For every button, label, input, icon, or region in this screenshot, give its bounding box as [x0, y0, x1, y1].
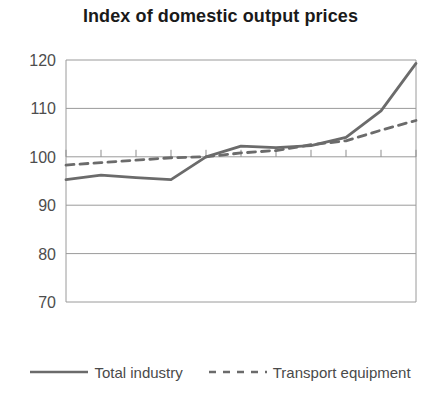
y-axis-tick-label: 90: [38, 197, 56, 214]
x-axis-tick-label: 2006: [399, 314, 432, 318]
plot-area: 708090100110120199619982000200220042006: [0, 48, 441, 318]
x-axis-tick-label: 2004: [329, 314, 362, 318]
y-axis-tick-label: 110: [30, 100, 56, 117]
legend-swatch-solid-line-icon: [30, 365, 90, 379]
x-axis-tick-label: 2002: [259, 314, 292, 318]
series-line-total-industry: [66, 63, 416, 179]
series-line-transport-equipment: [66, 121, 416, 166]
y-axis-tick-label: 100: [29, 149, 56, 166]
legend-label-transport-equipment: Transport equipment: [273, 364, 411, 381]
legend-item-total-industry: Total industry: [30, 364, 182, 381]
y-axis-tick-label: 80: [38, 246, 56, 263]
chart-title: Index of domestic output prices: [0, 6, 441, 27]
chart-container: Index of domestic output prices 70809010…: [0, 0, 441, 407]
y-axis-tick-label: 120: [29, 52, 56, 69]
x-axis-tick-label: 1996: [49, 314, 82, 318]
y-axis-tick-label: 70: [38, 294, 56, 311]
x-axis-tick-label: 1998: [119, 314, 152, 318]
legend-item-transport-equipment: Transport equipment: [209, 364, 411, 381]
legend-swatch-dashed-line-icon: [209, 365, 269, 379]
x-axis-tick-label: 2000: [189, 314, 222, 318]
chart-svg: 708090100110120199619982000200220042006: [0, 48, 441, 318]
legend-label-total-industry: Total industry: [94, 364, 182, 381]
chart-legend: Total industry Transport equipment: [0, 352, 441, 392]
